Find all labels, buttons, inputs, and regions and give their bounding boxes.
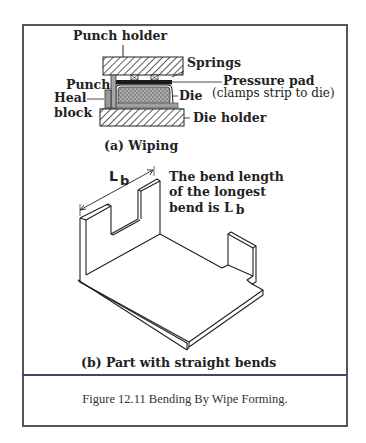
- note-line-1: The bend length: [169, 169, 284, 184]
- die: [118, 87, 170, 104]
- part-b-title: (b) Part with straight bends: [81, 355, 276, 370]
- label-block: block: [54, 105, 92, 120]
- heal-block: [105, 90, 111, 108]
- punch: [111, 75, 116, 108]
- label-punch-holder: Punch holder: [73, 28, 167, 43]
- note-line-2: of the longest: [169, 184, 266, 199]
- pressure-pad: [114, 80, 172, 85]
- figure-caption: Figure 12.11 Bending By Wipe Forming.: [24, 376, 346, 423]
- label-heal: Heal: [54, 90, 87, 105]
- die-holder-block: [100, 109, 184, 126]
- label-die: Die: [179, 88, 203, 103]
- label-springs: Springs: [187, 55, 241, 70]
- punch-holder-block: [103, 57, 183, 75]
- note-line-3: bend is Lb: [169, 200, 245, 217]
- dimension-label-l: Lb: [109, 168, 129, 188]
- springs: [131, 75, 158, 80]
- part-a-title: (a) Wiping: [104, 138, 178, 153]
- label-die-holder: Die holder: [193, 110, 267, 125]
- wiping-die-drawing: Punch holder Springs Pressure pad (clamp…: [54, 28, 335, 153]
- label-pressure-pad-note: (clamps strip to die): [212, 86, 335, 100]
